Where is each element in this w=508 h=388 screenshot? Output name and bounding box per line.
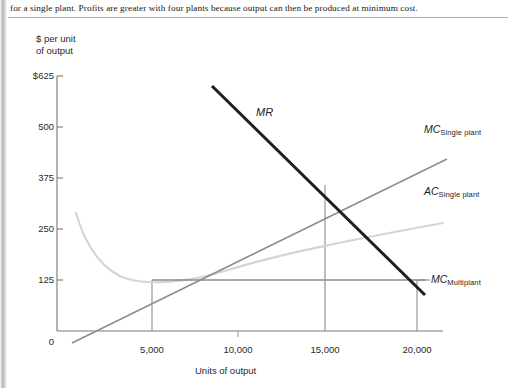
plot-canvas [0, 18, 508, 388]
mc-multiplant-label: MCMultiplant [431, 273, 481, 285]
mr-line [212, 86, 425, 295]
ac-single-plant-label-main: AC [424, 185, 439, 197]
ac-single-plant-label: ACSingle plant [424, 185, 479, 197]
mc-multiplant-label-main: MC [431, 273, 447, 285]
mc-single-plant-label: MCSingle plant [424, 123, 481, 135]
mc-single-plant-label-main: MC [424, 123, 440, 135]
mc-single-plant-line [72, 159, 447, 343]
mc-single-plant-label-sub: Single plant [440, 128, 481, 137]
ac-single-plant-label-sub: Single plant [439, 190, 480, 199]
figure-caption: for a single plant. Profits are greater … [10, 2, 502, 14]
ac-single-plant-curve [76, 213, 443, 282]
mr-curve-label: MR [256, 106, 273, 118]
economics-chart: $ per unit of output $625 500 375 250 12… [0, 18, 508, 388]
mc-multiplant-label-sub: Multiplant [447, 278, 481, 287]
